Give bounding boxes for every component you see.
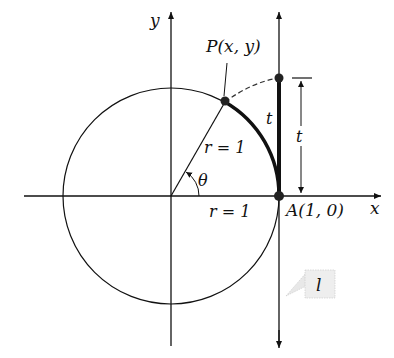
- radius-horizontal-label: r = 1: [209, 202, 250, 221]
- segment-length-label: t: [296, 127, 303, 146]
- dashed-wrap-arc: [225, 78, 279, 102]
- tangent-line-l-label: l: [316, 275, 321, 295]
- radius-slanted-label: r = 1: [204, 138, 245, 157]
- y-axis-label: y: [149, 10, 160, 30]
- angle-theta-label: θ: [198, 171, 208, 190]
- point-p-label: P(x, y): [205, 36, 261, 56]
- callout-l-tail: [286, 273, 306, 296]
- p-label-leader: [224, 63, 227, 96]
- point-top: [275, 74, 284, 83]
- unit-circle-diagram: y x P(x, y) A(1, 0) r = 1 r = 1 θ t t l: [0, 0, 394, 358]
- point-a: [274, 191, 284, 201]
- x-axis-label: x: [370, 198, 380, 218]
- arc-length-label: t: [266, 109, 273, 128]
- point-a-label: A(1, 0): [284, 200, 344, 220]
- point-p: [221, 97, 230, 106]
